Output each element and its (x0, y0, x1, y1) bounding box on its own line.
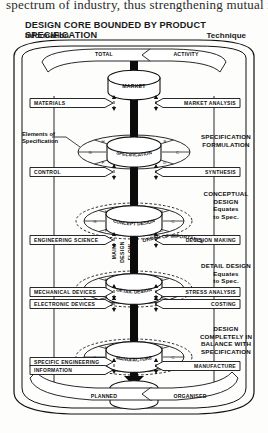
concept-node-C: C (171, 219, 174, 224)
right-input-0-label: MARKET ANALYSIS (184, 100, 236, 106)
note-line: DETAIL DESIGN (190, 262, 262, 270)
specification-node-B: B (163, 139, 166, 144)
specification-node-H: H (101, 139, 104, 144)
banner-organised-label: ORGANISED (173, 393, 206, 399)
feedback-arrowhead (154, 244, 158, 248)
note-line: SPECIFICATION (190, 133, 262, 141)
note-line: to Spec. (190, 213, 262, 221)
note-line: DESIGN (190, 198, 262, 206)
feedback-arrowhead (154, 308, 158, 312)
banner-planned-label: PLANNED (91, 393, 118, 399)
feedback-arrowhead (154, 176, 158, 180)
note-elements-of-specification: Elements of Specification (22, 131, 58, 145)
left-input-0-label: MATERIALS (34, 100, 66, 106)
main-design-flow-word: FLOW (127, 244, 133, 260)
banner-activity-label: ACTIVITY (173, 51, 199, 57)
feedback-arrowhead (112, 308, 116, 312)
note-line: Equates (190, 270, 262, 278)
right-input-4-label: COSTING (211, 301, 236, 307)
right-input-1-label: SYNTHESIS (205, 169, 236, 175)
specification-node-F: F (102, 160, 105, 165)
feedback-arrowhead (112, 107, 116, 111)
note-line: to Spec. (190, 277, 262, 285)
note-manufacture-balance: DESIGN COMPLETELY IN BALANCE WITH SPECIF… (188, 325, 264, 355)
banner-total-label: TOTAL (95, 51, 113, 57)
page-running-text: spectrum of industry, thus strengthening… (6, 0, 268, 13)
note-line: Specification (22, 138, 58, 145)
note-line: BALANCE WITH (188, 340, 264, 348)
specification-top (107, 137, 161, 153)
right-heading: Technique (207, 31, 246, 40)
right-input-5-label: MANUFACTURE (194, 363, 236, 369)
left-input-5-label: SPECIFIC ENGINEERING (34, 359, 99, 365)
left-input-1-label: CONTROL (34, 169, 61, 175)
diagram-canvas: spectrum of industry, thus strengthening… (0, 0, 268, 433)
left-input-2-label: ENGINEERING SCIENCE (34, 237, 99, 243)
feedback-arrowhead (154, 370, 158, 374)
specification-node-D: D (163, 160, 166, 165)
note-line: Equates (190, 205, 262, 213)
note-line: DESIGN (188, 325, 264, 333)
right-input-3-label: STRESS ANALYSIS (185, 289, 236, 295)
note-line: Elements of (22, 131, 58, 138)
note-line: SPECIFICATION (188, 348, 264, 356)
main-design-flow-word: DESIGN (119, 241, 125, 263)
specification-node-G: G (89, 150, 92, 155)
left-heading: Information (25, 31, 69, 40)
feedback-arrowhead (154, 107, 158, 111)
manufacture-node-C: C (171, 355, 174, 360)
note-conceptual-design: CONCEPTUAL DESIGN Equates to Spec. (190, 190, 262, 220)
concept-node-G: G (93, 219, 96, 224)
left-input-3-label: MECHANICAL DEVICES (34, 289, 97, 295)
note-detail-design: DETAIL DESIGN Equates to Spec. (190, 262, 262, 285)
market-label: MARKET (122, 83, 146, 89)
manufacture-top (106, 342, 162, 359)
note-line: FORMULATION (190, 141, 262, 149)
main-design-flow-word: MAIN (111, 245, 117, 259)
note-line: CONCEPTUAL (190, 190, 262, 198)
note-line: COMPLETELY IN (188, 333, 264, 341)
left-input-6-label: INFORMATION (34, 367, 72, 373)
feedback-arrowhead (112, 176, 116, 180)
feedback-arrowhead (112, 370, 116, 374)
note-specification-formulation: SPECIFICATION FORMULATION (190, 133, 262, 148)
left-input-4-label: ELECTRONIC DEVICES (34, 301, 96, 307)
specification-node-C: C (176, 150, 179, 155)
